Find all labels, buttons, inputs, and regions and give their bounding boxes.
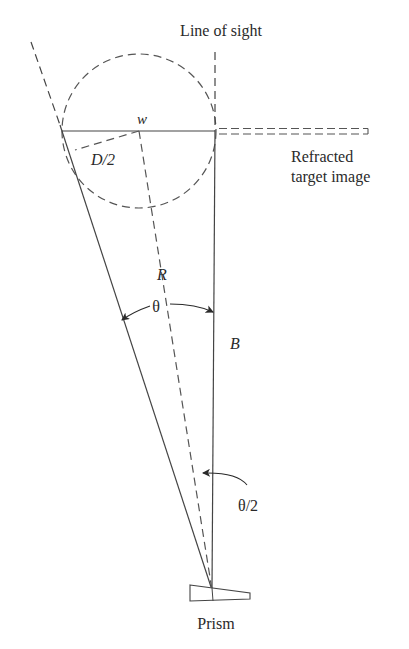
b-label: B [230, 335, 240, 352]
half-theta-arc [203, 473, 247, 485]
prism-shape [190, 585, 250, 601]
refracted-label-1: Refracted [291, 148, 353, 165]
baseline-b-line [212, 131, 215, 590]
range-r-line [139, 131, 212, 590]
half-theta-label: θ/2 [238, 497, 258, 514]
w-label: w [137, 111, 147, 127]
line-of-sight-label: Line of sight [180, 22, 262, 40]
r-label: R [156, 266, 167, 283]
prism-diagram: Line of sight Refracted target image w D… [0, 0, 409, 649]
refracted-label-2: target image [291, 168, 370, 186]
theta-arc-left [122, 306, 150, 320]
d2-label: D/2 [90, 151, 115, 168]
tangent-line [60, 125, 212, 590]
theta-arc-right [170, 304, 213, 312]
theta-label: θ [152, 298, 160, 315]
radius-line [75, 131, 139, 150]
prism-label: Prism [197, 615, 235, 632]
tangent-line-dashed [31, 42, 60, 125]
